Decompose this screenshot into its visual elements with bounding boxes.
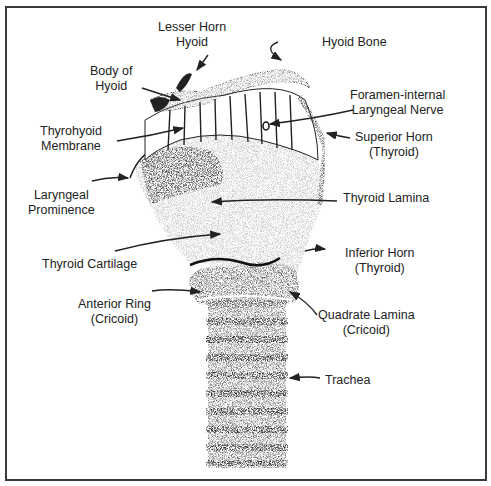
label-body-of-hyoid: Body of Hyoid bbox=[90, 64, 132, 94]
label-inferior-horn-thyroid: Inferior Horn (Thyroid) bbox=[345, 246, 414, 276]
label-line: Laryngeal bbox=[28, 188, 95, 203]
label-line: Prominence bbox=[28, 203, 95, 218]
label-line: (Cricoid) bbox=[318, 323, 415, 338]
label-line: (Thyroid) bbox=[355, 145, 433, 160]
label-thyroid-cartilage: Thyroid Cartilage bbox=[42, 257, 137, 272]
label-anterior-ring-cricoid: Anterior Ring (Cricoid) bbox=[78, 297, 151, 327]
label-trachea: Trachea bbox=[325, 373, 370, 388]
label-line: (Cricoid) bbox=[78, 312, 151, 327]
label-line: Hyoid Bone bbox=[322, 35, 387, 50]
label-line: Thyroid Cartilage bbox=[42, 257, 137, 272]
label-line: Hyoid bbox=[158, 35, 226, 50]
label-line: Hyoid bbox=[90, 79, 132, 94]
label-quadrate-lamina-cricoid: Quadrate Lamina (Cricoid) bbox=[318, 308, 415, 338]
label-line: Foramen-internal bbox=[350, 88, 445, 103]
foramen-hole bbox=[263, 122, 269, 130]
label-hyoid-bone: Hyoid Bone bbox=[322, 35, 387, 50]
label-laryngeal-prominence: Laryngeal Prominence bbox=[28, 188, 95, 218]
label-line: Laryngeal Nerve bbox=[350, 103, 445, 118]
trachea-shape bbox=[206, 300, 288, 468]
label-line: Thyroid Lamina bbox=[343, 191, 429, 206]
label-line: Body of bbox=[90, 64, 132, 79]
larynx-illustration bbox=[0, 0, 491, 486]
label-line: Thyrohyoid bbox=[40, 124, 102, 139]
label-line: Anterior Ring bbox=[78, 297, 151, 312]
label-foramen-internal-laryngeal-nerve: Foramen-internal Laryngeal Nerve bbox=[350, 88, 445, 118]
lesser-horn-shape bbox=[176, 73, 192, 92]
label-line: Superior Horn bbox=[355, 130, 433, 145]
label-line: (Thyroid) bbox=[345, 261, 414, 276]
label-line: Inferior Horn bbox=[345, 246, 414, 261]
label-line: Trachea bbox=[325, 373, 370, 388]
label-line: Membrane bbox=[40, 139, 102, 154]
label-lesser-horn-hyoid: Lesser Horn Hyoid bbox=[158, 20, 226, 50]
label-thyrohyoid-membrane: Thyrohyoid Membrane bbox=[40, 124, 102, 154]
label-thyroid-lamina: Thyroid Lamina bbox=[343, 191, 429, 206]
label-superior-horn-thyroid: Superior Horn (Thyroid) bbox=[355, 130, 433, 160]
label-line: Lesser Horn bbox=[158, 20, 226, 35]
label-line: Quadrate Lamina bbox=[318, 308, 415, 323]
